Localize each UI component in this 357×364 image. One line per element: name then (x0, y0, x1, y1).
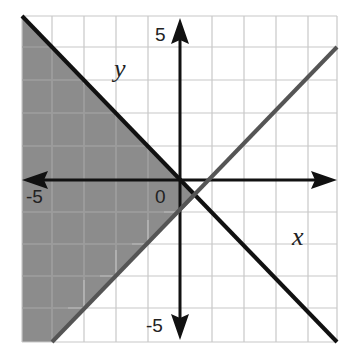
y-max-tick-label: 5 (155, 24, 166, 45)
y-axis-label: y (111, 54, 126, 83)
coordinate-graph: 5 -5 -5 0 y x (0, 0, 357, 364)
x-min-tick-label: -5 (26, 186, 43, 207)
x-axis-label: x (291, 222, 304, 251)
y-min-tick-label: -5 (146, 315, 163, 336)
origin-label: 0 (155, 186, 166, 207)
